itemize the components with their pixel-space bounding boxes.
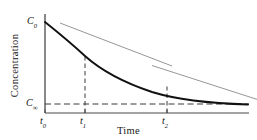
y-tick-label-c-infinity-letter: C: [26, 97, 33, 108]
plot-canvas: [0, 0, 257, 140]
concentration-time-figure: Concentration Time C0 C∞ t0 t1 t2: [0, 0, 257, 140]
y-tick-label-c-infinity: C∞: [26, 98, 38, 108]
x-tick-label-t0-subscript: 0: [43, 122, 46, 129]
y-axis-title: Concentration: [9, 14, 20, 118]
x-tick-label-t2-subscript: 2: [165, 122, 168, 129]
x-tick-label-t0: t0: [40, 116, 46, 126]
x-tick-label-t2: t2: [162, 116, 168, 126]
y-tick-label-c-infinity-subscript: ∞: [33, 104, 38, 112]
concentration-decay-curve: [45, 22, 248, 105]
y-tick-label-c0-letter: C: [27, 15, 34, 26]
y-tick-label-c0: C0: [27, 16, 37, 26]
x-tick-label-t1: t1: [80, 116, 86, 126]
x-axis-title: Time: [0, 125, 257, 136]
tangent-at-t1: [60, 23, 172, 66]
y-tick-label-c0-subscript: 0: [34, 22, 37, 29]
x-tick-label-t1-subscript: 1: [83, 122, 86, 129]
